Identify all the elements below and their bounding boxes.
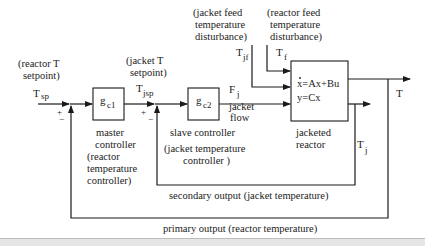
svg-text:(reactor: (reactor — [87, 151, 120, 163]
jacket-flow-label: F j jacket flow — [228, 83, 254, 123]
svg-text:g: g — [196, 94, 202, 106]
svg-text:temperature: temperature — [270, 19, 320, 30]
svg-text:flow: flow — [230, 112, 250, 123]
svg-text:T: T — [136, 82, 143, 94]
svg-text:controller): controller) — [87, 175, 132, 187]
master-controller-block: g c1 — [93, 88, 124, 120]
master-controller-label: master controller (reactor temperature c… — [87, 127, 137, 187]
slave-controller-label: slave controller (jacket temperature con… — [164, 127, 246, 167]
svg-text:g: g — [100, 94, 106, 106]
svg-text:T: T — [33, 87, 40, 99]
svg-text:jacketed: jacketed — [295, 127, 332, 138]
svg-text:c2: c2 — [203, 100, 212, 110]
svg-text:jacket: jacket — [228, 101, 254, 112]
svg-text:temperature: temperature — [195, 19, 245, 30]
jacketed-reactor-label: jacketed reactor — [295, 127, 332, 150]
svg-text:sp: sp — [41, 91, 50, 101]
svg-text:setpoint): setpoint) — [130, 67, 167, 79]
svg-text:setpoint): setpoint) — [23, 70, 60, 82]
svg-text:F: F — [229, 83, 235, 95]
svg-text:slave controller: slave controller — [170, 127, 236, 138]
output-t-label: T — [396, 87, 403, 99]
svg-text:j: j — [364, 145, 368, 155]
sum2-plus: + — [141, 107, 146, 117]
svg-text:jsp: jsp — [142, 88, 154, 98]
svg-text:x=Ax+Bu: x=Ax+Bu — [297, 78, 340, 89]
svg-text:f: f — [284, 52, 287, 62]
jacket-setpoint-label: (jacket T setpoint) T jsp — [126, 55, 167, 98]
svg-text:c1: c1 — [107, 100, 116, 110]
svg-text:T: T — [276, 46, 283, 58]
secondary-output-label: secondary output (jacket temperature) — [169, 190, 329, 202]
svg-text:master: master — [96, 127, 124, 138]
svg-text:j: j — [236, 89, 240, 99]
svg-text:T: T — [357, 138, 364, 150]
svg-text:controller ): controller ) — [183, 155, 230, 167]
svg-text:(jacket feed: (jacket feed — [193, 7, 243, 19]
svg-text:disturbance): disturbance) — [195, 31, 247, 43]
sum2-minus: − — [148, 114, 153, 124]
svg-text:T: T — [236, 46, 243, 58]
reactor-setpoint-label: (reactor T setpoint) T sp — [18, 58, 60, 101]
svg-text:(jacket temperature: (jacket temperature — [164, 143, 246, 155]
bottom-divider — [0, 238, 425, 246]
sum1-minus: − — [59, 114, 64, 124]
jacketed-reactor-block: x=Ax+Bu y=Cx — [291, 61, 348, 121]
svg-text:(jacket T: (jacket T — [126, 55, 164, 67]
svg-text:temperature: temperature — [87, 163, 137, 174]
svg-text:reactor: reactor — [296, 139, 326, 150]
svg-text:y=Cx: y=Cx — [297, 92, 321, 103]
output-tj-label: T j — [357, 138, 368, 155]
jacket-feed-disturbance-label: (jacket feed temperature disturbance) T … — [193, 7, 249, 62]
svg-text:controller: controller — [95, 139, 136, 150]
primary-output-label: primary output (reactor temperature) — [163, 223, 318, 235]
slave-controller-block: g c2 — [188, 88, 219, 120]
reactor-feed-disturbance-label: (reactor feed temperature disturbance) T… — [267, 7, 322, 62]
svg-text:(reactor feed: (reactor feed — [267, 7, 321, 19]
svg-text:(reactor T: (reactor T — [18, 58, 60, 70]
svg-text:disturbance): disturbance) — [270, 31, 322, 43]
svg-text:jf: jf — [242, 52, 249, 62]
